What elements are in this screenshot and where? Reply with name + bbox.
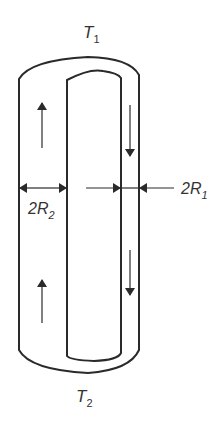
temperature-label-bottom: T2 [76,387,93,409]
loop-diagram: T1 T2 2R2 2R1 [0,0,223,427]
inner-wall [67,70,121,361]
dimension-label-2r2: 2R2 [27,200,55,221]
dimension-label-2r1: 2R1 [180,180,208,201]
temperature-label-top: T1 [83,23,100,45]
